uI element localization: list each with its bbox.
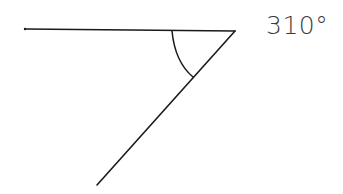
angle-diagram: 310°	[0, 0, 343, 194]
ray-endpoint-left	[24, 28, 26, 30]
angle-arc	[172, 31, 193, 77]
horizontal-ray	[25, 29, 235, 31]
diagonal-ray	[97, 31, 235, 185]
angle-label: 310°	[266, 13, 328, 38]
